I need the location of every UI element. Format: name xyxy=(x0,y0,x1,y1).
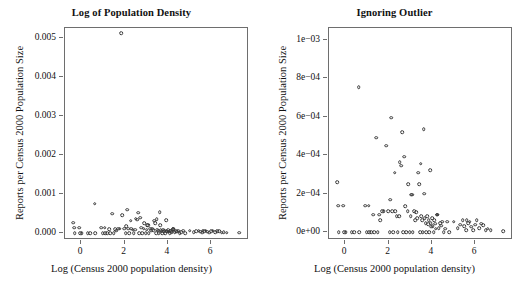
data-point xyxy=(477,226,481,230)
data-point xyxy=(442,230,446,234)
data-point xyxy=(341,204,345,208)
data-point xyxy=(353,230,357,234)
data-point xyxy=(389,116,393,120)
data-point xyxy=(439,224,443,228)
data-point xyxy=(489,228,493,232)
data-point xyxy=(419,162,423,166)
x-tick-label: 2 xyxy=(385,246,390,256)
panel-right-y-axis-label: Reports per Census 2000 Population Size xyxy=(277,46,288,220)
data-point xyxy=(473,223,477,227)
y-tick-label: 6e−04 xyxy=(296,111,320,121)
y-tick-mark xyxy=(323,231,327,232)
data-point xyxy=(80,231,84,235)
x-tick-mark xyxy=(80,240,81,244)
data-point xyxy=(427,230,431,234)
data-point xyxy=(367,204,371,208)
data-point xyxy=(132,231,136,235)
data-point xyxy=(409,214,413,218)
y-tick-mark xyxy=(59,193,63,194)
data-point xyxy=(73,226,77,230)
data-point xyxy=(461,219,465,223)
x-tick-mark xyxy=(124,240,125,244)
y-tick-label: 0e+00 xyxy=(296,226,320,236)
data-point xyxy=(397,215,401,219)
x-tick-label: 6 xyxy=(472,246,477,256)
data-point xyxy=(410,193,414,197)
x-tick-label: 0 xyxy=(342,246,347,256)
data-point xyxy=(456,226,460,230)
data-point xyxy=(400,130,404,134)
y-tick-mark xyxy=(323,116,327,117)
data-point xyxy=(385,144,389,148)
data-point xyxy=(335,180,339,184)
x-tick-label: 6 xyxy=(208,246,213,256)
y-tick-label: 0.001 xyxy=(35,188,56,198)
data-point xyxy=(411,230,415,234)
data-point xyxy=(440,220,444,224)
panel-right-title: Ignoring Outlier xyxy=(263,7,526,18)
y-tick-label: 0.002 xyxy=(35,149,56,159)
data-point xyxy=(433,222,437,226)
two-panel-scatter-figure: Log of Population Density Reports per Ce… xyxy=(0,0,527,288)
panel-right-plot-area xyxy=(328,27,512,239)
panel-left-x-axis-label: Log (Census 2000 population density) xyxy=(0,263,263,274)
data-point xyxy=(89,231,93,235)
data-point xyxy=(382,210,386,214)
data-point xyxy=(422,127,426,131)
y-tick-mark xyxy=(59,76,63,77)
data-point xyxy=(164,219,168,223)
data-point xyxy=(133,228,137,232)
data-point xyxy=(475,219,479,223)
data-point xyxy=(119,32,123,36)
y-tick-mark xyxy=(59,232,63,233)
data-point xyxy=(482,223,486,227)
data-point xyxy=(237,231,241,235)
data-point xyxy=(77,226,81,230)
data-point xyxy=(73,231,77,235)
x-tick-mark xyxy=(167,240,168,244)
panel-left-plot-area xyxy=(64,27,248,239)
data-point xyxy=(71,221,75,225)
data-point xyxy=(406,210,410,214)
panel-left-title: Log of Population Density xyxy=(0,7,263,18)
data-point xyxy=(417,183,421,187)
data-point xyxy=(443,227,447,231)
x-tick-label: 4 xyxy=(164,246,169,256)
data-point xyxy=(407,182,411,186)
x-tick-mark xyxy=(388,240,389,244)
data-point xyxy=(501,230,505,234)
data-point xyxy=(391,230,395,234)
data-point xyxy=(103,226,107,230)
y-tick-label: 0.005 xyxy=(35,32,56,42)
data-point xyxy=(471,228,475,232)
y-tick-label: 0.003 xyxy=(35,110,56,120)
data-point xyxy=(94,231,98,235)
data-point xyxy=(121,214,125,218)
data-point xyxy=(138,216,142,220)
data-point xyxy=(374,136,378,140)
data-point xyxy=(183,231,187,235)
x-tick-label: 4 xyxy=(428,246,433,256)
y-tick-mark xyxy=(59,37,63,38)
data-point xyxy=(127,231,131,235)
data-point xyxy=(396,230,400,234)
data-point xyxy=(388,198,392,202)
data-point xyxy=(129,219,133,223)
data-point xyxy=(357,86,361,90)
data-point xyxy=(225,231,229,235)
data-point xyxy=(376,230,380,234)
data-point xyxy=(415,217,419,221)
data-point xyxy=(428,168,432,172)
x-tick-mark xyxy=(344,240,345,244)
data-point xyxy=(153,221,157,225)
panel-right: Ignoring Outlier Reports per Census 2000… xyxy=(263,0,526,288)
data-point xyxy=(358,230,362,234)
data-point xyxy=(399,164,403,168)
x-tick-mark xyxy=(210,240,211,244)
y-tick-mark xyxy=(323,77,327,78)
data-point xyxy=(422,192,426,196)
x-tick-label: 2 xyxy=(121,246,126,256)
data-point xyxy=(464,228,468,232)
data-point xyxy=(378,213,382,217)
y-tick-mark xyxy=(59,115,63,116)
